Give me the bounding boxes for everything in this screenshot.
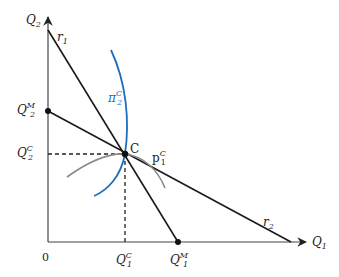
reaction-line-r2 bbox=[48, 111, 291, 242]
q1c-label: QC1 bbox=[116, 254, 132, 266]
y-axis-label: Q2 bbox=[26, 14, 41, 26]
point-q2m bbox=[45, 108, 51, 114]
q1m-label: QM1 bbox=[170, 254, 188, 266]
isoprofit-curve-p1c bbox=[67, 154, 165, 188]
point-q1m bbox=[175, 239, 181, 245]
q2m-label: QM2 bbox=[17, 104, 35, 116]
x-axis-label: Q1 bbox=[312, 236, 327, 248]
point-c bbox=[122, 151, 128, 157]
reaction-line-r1 bbox=[48, 30, 178, 242]
q2c-label: QC2 bbox=[17, 147, 33, 159]
p1c-label: pC1 bbox=[152, 152, 166, 164]
reaction-function-diagram bbox=[0, 0, 339, 277]
isoprofit-curve-pi2c bbox=[94, 50, 127, 196]
point-c-label: C bbox=[130, 143, 139, 155]
r2-label: r2 bbox=[263, 216, 274, 228]
origin-label: 0 bbox=[42, 252, 49, 263]
r1-label: r1 bbox=[57, 31, 68, 43]
pi2c-label: πC2 bbox=[108, 92, 122, 104]
